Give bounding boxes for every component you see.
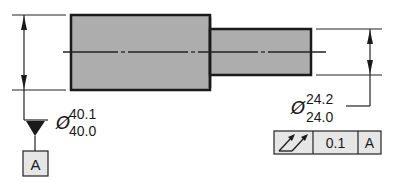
datum-reference: A (365, 135, 375, 151)
datum-triangle-icon (26, 121, 45, 136)
large-diameter-lower-limit: 40.0 (69, 123, 96, 139)
small-diameter-lower-limit: 24.0 (306, 109, 333, 125)
left-extension-lines (12, 15, 66, 90)
small-diameter-upper-limit: 24.2 (306, 91, 333, 107)
large-diameter-upper-limit: 40.1 (69, 106, 96, 122)
diameter-symbol-small: Ø (290, 97, 306, 118)
arrow-down-icon (367, 60, 373, 74)
arrow-up-icon (21, 16, 27, 30)
small-diameter-dimension-line (346, 29, 373, 106)
technical-drawing: A Ø 40.1 40.0 Ø 24.2 24.0 0.1 A (0, 0, 396, 182)
arrow-up-icon (367, 30, 373, 44)
large-diameter-dimension-line (21, 15, 48, 120)
arrow-down-icon (21, 75, 27, 89)
datum-label: A (30, 156, 40, 173)
tolerance-value: 0.1 (326, 135, 346, 151)
